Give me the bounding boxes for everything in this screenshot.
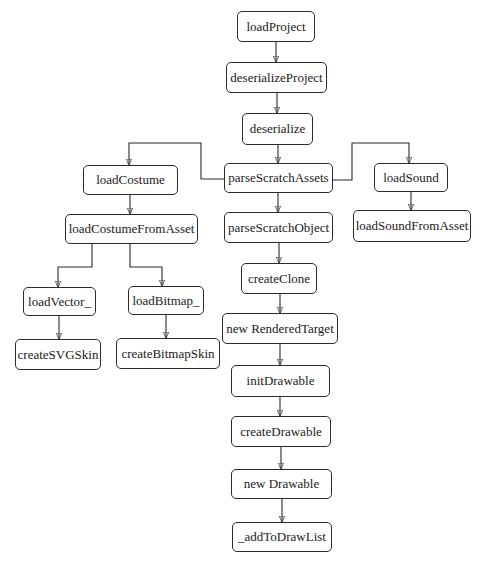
call-flow-diagram: loadProjectdeserializeProjectdeserialize… <box>0 0 486 568</box>
node-parse-scratch-assets[interactable]: parseScratchAssets <box>224 163 333 193</box>
node-create-bitmap-skin[interactable]: createBitmapSkin <box>116 338 220 369</box>
node-create-drawable[interactable]: createDrawable <box>231 416 331 447</box>
edge-loadCostumeFromAsset-to-loadBitmap_ <box>130 244 162 286</box>
node-create-svgskin[interactable]: createSVGSkin <box>15 339 101 370</box>
node-new-drawable[interactable]: new Drawable <box>231 469 332 499</box>
node-init-drawable[interactable]: initDrawable <box>231 365 330 397</box>
node-load-project[interactable]: loadProject <box>237 11 315 42</box>
node-load-sound[interactable]: loadSound <box>374 163 448 192</box>
edge-group <box>58 42 411 522</box>
edge-loadCostumeFromAsset-to-loadVector_ <box>58 244 92 287</box>
node-deserialize-project[interactable]: deserializeProject <box>226 62 327 93</box>
node-load-bitmap[interactable]: loadBitmap_ <box>128 286 204 315</box>
node-parse-scratch-object[interactable]: parseScratchObject <box>224 212 333 243</box>
node-load-costume-from-asset[interactable]: loadCostumeFromAsset <box>65 214 198 244</box>
node-load-costume[interactable]: loadCostume <box>83 165 178 195</box>
node-deserialize[interactable]: deserialize <box>242 113 313 145</box>
node-load-vector[interactable]: loadVector_ <box>23 287 96 316</box>
node-new-rendered-target[interactable]: new RenderedTarget <box>222 313 338 344</box>
node-load-sound-from-asset[interactable]: loadSoundFromAsset <box>353 210 471 242</box>
node-create-clone[interactable]: createClone <box>241 263 317 294</box>
node-add-to-draw-list[interactable]: _addToDrawList <box>232 522 332 552</box>
